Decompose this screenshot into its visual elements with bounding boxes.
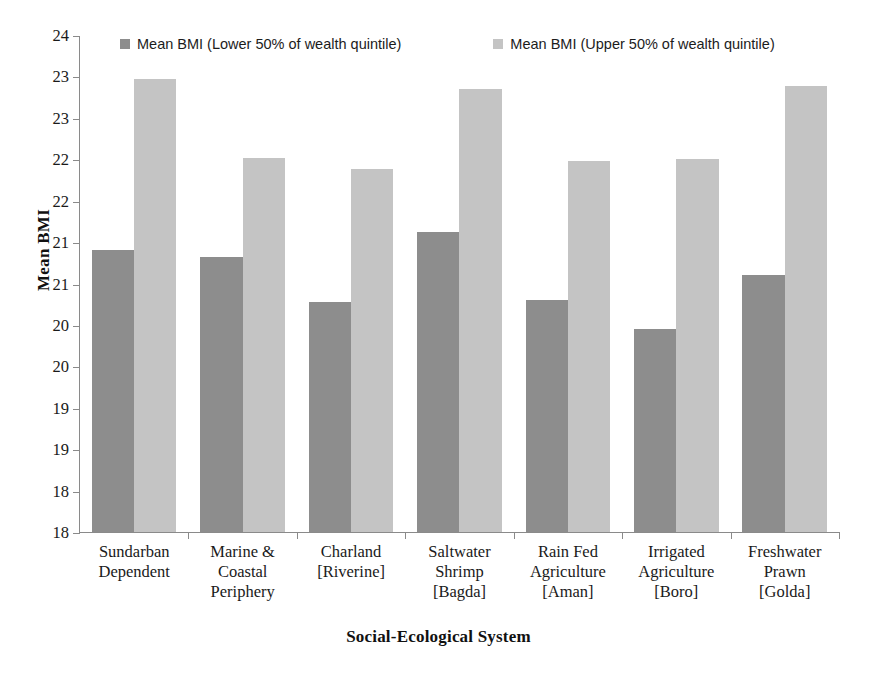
bar-lower-50	[526, 300, 568, 532]
y-axis-tick	[73, 119, 80, 120]
y-axis-tick-label: 21	[53, 275, 70, 295]
bar-upper-50	[785, 86, 827, 532]
y-axis-tick	[73, 409, 80, 410]
y-axis-tick-label: 19	[53, 399, 70, 419]
y-axis-tick-label: 18	[53, 482, 70, 502]
bar-lower-50	[200, 257, 242, 532]
x-axis-tick	[839, 532, 840, 539]
bar-lower-50	[417, 232, 459, 532]
y-axis-tick	[73, 326, 80, 327]
bar-group	[92, 36, 177, 532]
y-axis-tick-label: 21	[53, 233, 70, 253]
bar-upper-50	[243, 158, 285, 532]
x-axis-category-label: Rain FedAgriculture[Aman]	[514, 542, 622, 602]
bar-upper-50	[351, 169, 393, 532]
y-axis-title: Mean BMI	[34, 190, 54, 310]
x-axis-category-label: Charland[Riverine]	[297, 542, 405, 582]
y-axis-tick	[73, 160, 80, 161]
x-axis-tick	[731, 532, 732, 539]
bar-group	[742, 36, 827, 532]
y-axis-tick-label: 22	[53, 150, 70, 170]
x-axis-tick	[188, 532, 189, 539]
bar-lower-50	[92, 250, 134, 532]
y-axis-tick	[73, 285, 80, 286]
x-axis-category-label: SaltwaterShrimp[Bagda]	[405, 542, 513, 602]
x-axis-tick	[405, 532, 406, 539]
y-axis-tick	[73, 492, 80, 493]
bar-chart: Mean BMI (Lower 50% of wealth quintile) …	[0, 0, 877, 682]
y-axis-tick	[73, 533, 80, 534]
y-axis-tick	[73, 450, 80, 451]
y-axis-tick	[73, 36, 80, 37]
y-axis-tick-label: 23	[53, 67, 70, 87]
plot-area: 24232322222121202019191818SundarbanDepen…	[79, 36, 839, 533]
bar-upper-50	[134, 79, 176, 532]
bar-group	[634, 36, 719, 532]
x-axis-tick	[514, 532, 515, 539]
bar-group	[200, 36, 285, 532]
y-axis-tick-label: 20	[53, 316, 70, 336]
y-axis-tick-label: 24	[53, 26, 70, 46]
x-axis-category-label: FreshwaterPrawn[Golda]	[731, 542, 839, 602]
bar-group	[417, 36, 502, 532]
x-axis-title: Social-Ecological System	[0, 627, 877, 647]
bar-upper-50	[459, 89, 501, 532]
bar-lower-50	[309, 302, 351, 532]
y-axis-tick	[73, 243, 80, 244]
x-axis-category-label: SundarbanDependent	[80, 542, 188, 582]
y-axis-tick	[73, 77, 80, 78]
bar-upper-50	[676, 159, 718, 532]
bar-group	[309, 36, 394, 532]
bar-lower-50	[742, 275, 784, 532]
bar-lower-50	[634, 329, 676, 532]
y-axis-tick-label: 23	[53, 109, 70, 129]
y-axis-tick-label: 18	[53, 523, 70, 543]
x-axis-category-label: Marine &CoastalPeriphery	[188, 542, 296, 602]
y-axis-tick-label: 22	[53, 192, 70, 212]
x-axis-tick	[297, 532, 298, 539]
bar-upper-50	[568, 161, 610, 532]
x-axis-tick	[622, 532, 623, 539]
y-axis-tick	[73, 367, 80, 368]
y-axis-tick-label: 19	[53, 440, 70, 460]
x-axis-category-label: IrrigatedAgriculture[Boro]	[622, 542, 730, 602]
bar-group	[526, 36, 611, 532]
y-axis-tick	[73, 202, 80, 203]
y-axis-tick-label: 20	[53, 357, 70, 377]
